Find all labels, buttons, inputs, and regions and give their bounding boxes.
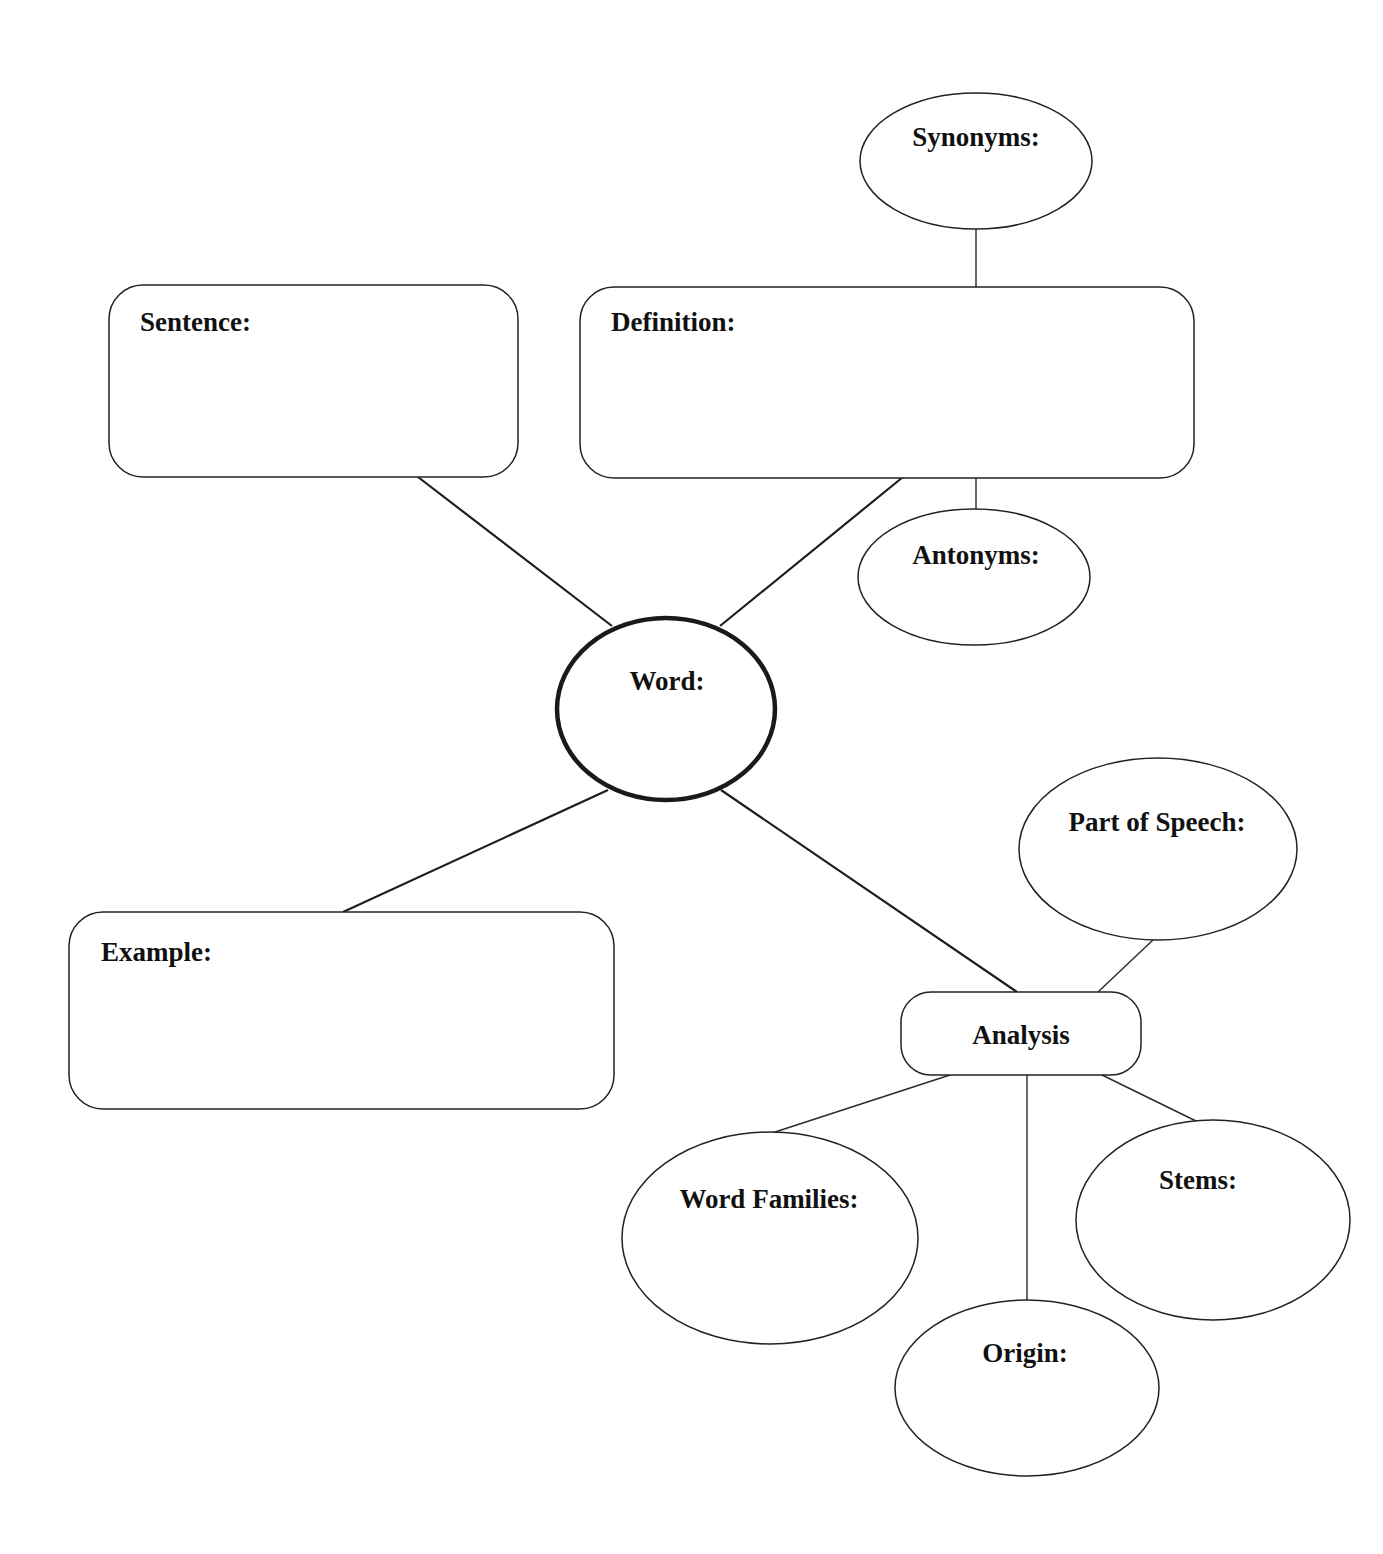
analysis-label: Analysis — [972, 1020, 1070, 1050]
origin-label: Origin: — [982, 1338, 1068, 1368]
node-stems: Stems: — [1076, 1120, 1350, 1320]
edge-word-example — [343, 790, 608, 912]
example-label: Example: — [101, 937, 212, 967]
word-circle[interactable] — [557, 618, 775, 800]
node-example: Example: — [69, 912, 614, 1109]
node-analysis: Analysis — [901, 992, 1141, 1075]
node-sentence: Sentence: — [109, 285, 518, 477]
node-antonyms: Antonyms: — [858, 509, 1090, 645]
sentence-label: Sentence: — [140, 307, 251, 337]
part-of-speech-label: Part of Speech: — [1069, 807, 1246, 837]
definition-label: Definition: — [611, 307, 736, 337]
stems-label: Stems: — [1159, 1165, 1237, 1195]
edge-analysis-word-families — [772, 1075, 950, 1133]
word-families-label: Word Families: — [679, 1184, 858, 1214]
node-word-families: Word Families: — [622, 1132, 918, 1344]
node-part-of-speech: Part of Speech: — [1019, 758, 1297, 940]
origin-ellipse — [895, 1300, 1159, 1476]
edge-word-sentence — [418, 477, 612, 626]
node-word: Word: — [557, 618, 775, 800]
word-map-diagram: Synonyms: Sentence: Definition: Antonyms… — [0, 0, 1383, 1554]
word-label: Word: — [629, 666, 704, 696]
antonyms-label: Antonyms: — [912, 540, 1040, 570]
edge-analysis-part-of-speech — [1098, 939, 1154, 992]
antonyms-ellipse — [858, 509, 1090, 645]
word-families-ellipse — [622, 1132, 918, 1344]
node-synonyms: Synonyms: — [860, 93, 1092, 229]
synonyms-ellipse — [860, 93, 1092, 229]
edge-analysis-stems — [1102, 1075, 1196, 1121]
edge-word-analysis — [721, 790, 1017, 992]
node-origin: Origin: — [895, 1300, 1159, 1476]
stems-ellipse — [1076, 1120, 1350, 1320]
synonyms-label: Synonyms: — [912, 122, 1040, 152]
part-of-speech-ellipse — [1019, 758, 1297, 940]
node-definition: Definition: — [580, 287, 1194, 478]
